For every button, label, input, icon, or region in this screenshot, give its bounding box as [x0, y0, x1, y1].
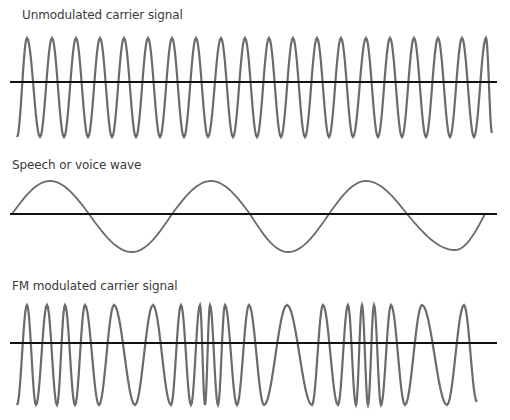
- fm-wave: [17, 305, 477, 405]
- waveform-diagram: [0, 0, 510, 420]
- carrier-wave: [17, 38, 492, 137]
- speech-wave: [12, 181, 485, 252]
